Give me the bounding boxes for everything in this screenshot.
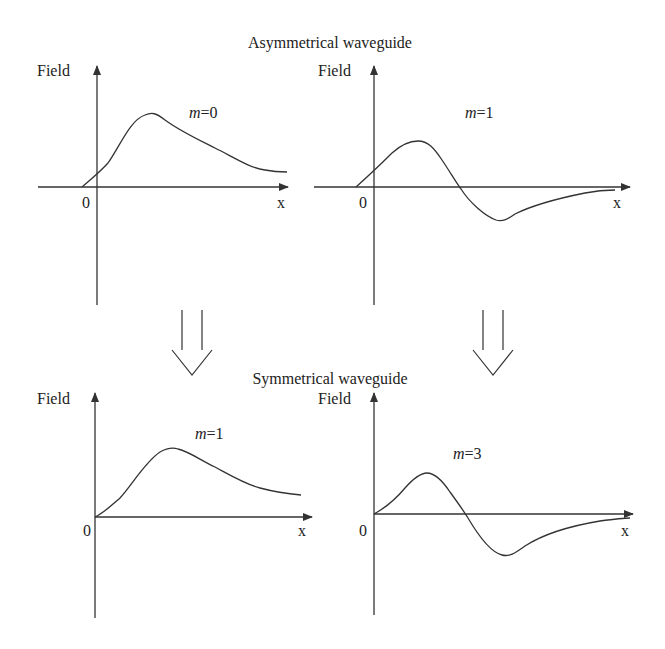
title-symmetrical: Symmetrical waveguide [252,370,407,388]
x-axis-label: x [277,194,285,211]
x-axis-label: x [621,522,629,539]
waveguide-mode-diagram: Asymmetrical waveguide Symmetrical waveg… [0,0,665,649]
mode-label: m=3 [453,445,482,462]
origin-label: 0 [359,194,367,211]
field-curve [95,448,301,517]
y-axis-label: Field [318,62,351,79]
mode-label: m=1 [465,104,494,121]
origin-label: 0 [82,194,90,211]
origin-label: 0 [359,522,367,539]
mode-label: m=1 [195,425,224,442]
origin-label: 0 [83,522,91,539]
x-axis-label: x [298,522,306,539]
panel-sym-m1: Field 0 x m=1 [37,390,312,618]
right-transform-arrow [473,310,513,375]
x-axis-label: x [613,194,621,211]
y-axis-label: Field [37,390,70,407]
panel-sym-m3: Field 0 x m=3 [318,390,633,615]
field-curve [82,113,287,187]
y-axis-label: Field [318,390,351,407]
panel-asym-m0: Field 0 x m=0 [37,62,288,305]
field-curve [356,141,615,221]
panel-asym-m1: Field 0 x m=1 [314,62,630,305]
title-asymmetrical: Asymmetrical waveguide [248,34,412,52]
y-axis-label: Field [37,62,70,79]
left-transform-arrow [172,310,212,375]
mode-label: m=0 [189,104,218,121]
